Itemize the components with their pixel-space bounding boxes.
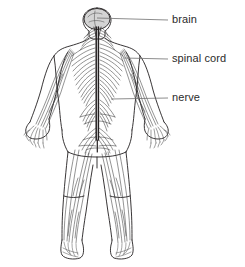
thoracic-nerves-right [100,44,123,106]
foot-nerves [63,242,131,257]
lumbar-nerves [80,100,115,131]
label-spinal-cord: spinal cord [172,53,226,64]
spinal-cord [94,27,101,152]
leader-line-nerve [111,98,168,99]
body-outline [26,8,169,259]
label-nerve: nerve [172,92,200,103]
brain-region [84,9,110,30]
label-brain: brain [172,14,197,25]
nervous-system-diagram: brain spinal cord nerve [0,0,245,267]
nervous-system-figure [0,0,245,267]
leader-lines [97,18,168,99]
leader-line-spinal-cord [124,58,168,59]
thoracic-nerves-left [72,44,95,106]
